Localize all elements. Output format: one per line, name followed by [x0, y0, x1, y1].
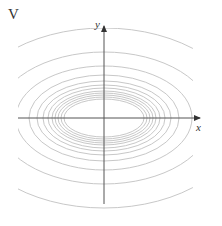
y-axis-label: y	[94, 18, 100, 30]
x-axis-label: x	[195, 121, 201, 133]
contour-lines	[0, 0, 222, 226]
contour-ellipse	[0, 0, 222, 226]
contour-plot: x y	[0, 0, 222, 226]
